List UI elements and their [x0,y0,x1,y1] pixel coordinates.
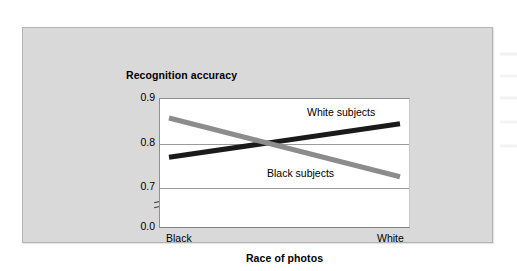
y-axis-tick-label: 0.9 [125,91,155,103]
y-axis-tick-label: 0.0 [125,220,155,232]
y-axis-tick-labels: 0.90.80.70.0 [123,98,155,228]
x-axis-tick-label-black: Black [166,232,192,244]
scan-artifact [500,34,517,184]
series-label-black-subjects: Black subjects [267,167,334,179]
y-axis-tick-label: 0.7 [125,180,155,192]
series-label-white-subjects: White subjects [307,106,375,118]
x-axis-title: Race of photos [159,252,410,264]
x-axis-tick-label-white: White [377,232,404,244]
figure-panel: Recognition accuracy 0.90.80.70.0 White … [22,27,493,243]
y-axis-tick-label: 0.8 [125,136,155,148]
y-axis-title: Recognition accuracy [126,69,237,81]
